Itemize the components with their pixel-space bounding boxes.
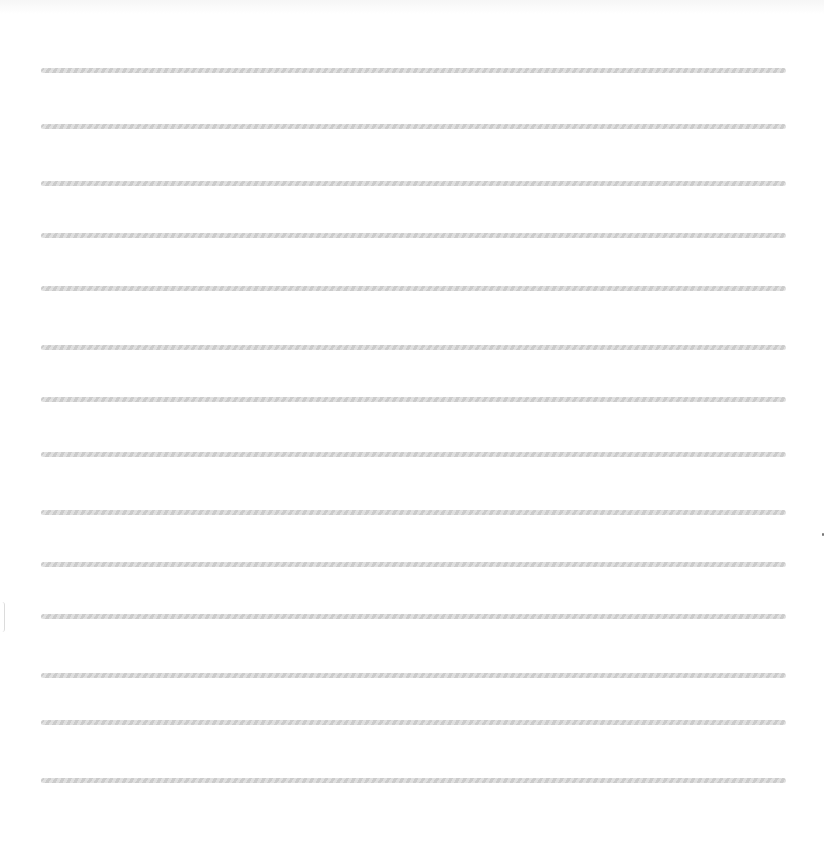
ruled-line: [41, 720, 786, 725]
ruled-line: [41, 124, 786, 129]
lined-paper-sheet: [0, 0, 824, 861]
ruled-line: [41, 614, 786, 619]
ruled-line: [41, 510, 786, 515]
ruled-line: [41, 562, 786, 567]
ruled-line: [41, 673, 786, 678]
ruled-line: [41, 286, 786, 291]
left-edge-mark: [0, 602, 5, 632]
ruled-line: [41, 233, 786, 238]
ruled-line: [41, 345, 786, 350]
ruled-line: [41, 452, 786, 457]
ruled-line: [41, 181, 786, 186]
ruled-line: [41, 778, 786, 783]
ruled-line: [41, 68, 786, 73]
ruled-line: [41, 397, 786, 402]
